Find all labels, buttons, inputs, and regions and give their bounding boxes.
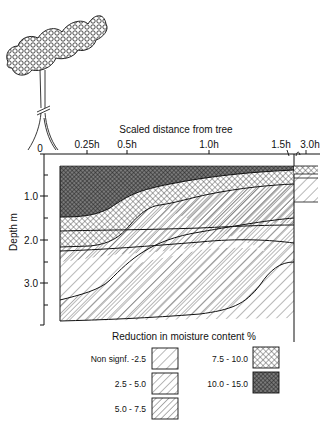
x-axis-title: Scaled distance from tree [119,124,233,135]
tree-canopy [7,16,107,75]
x-tick-3.0h: 3.0h [300,139,319,150]
legend-label-5.0-7.5: 5.0 - 7.5 [115,404,146,414]
legend-label-10.0-15.0: 10.0 - 15.0 [207,379,248,389]
x-tick-1.0h: 1.0h [199,139,218,150]
moisture-zones [60,154,318,342]
trunk-break-mark [37,106,50,115]
x-tick-0.5h: 0.5h [117,139,136,150]
legend-swatch-5.0-7.5 [152,398,178,419]
y-tick-1.0: 1.0 [24,191,38,202]
moisture-diagram: Scaled distance from tree 0 0.25h 0.5h 1… [0,0,327,432]
legend-swatch-non-signf [152,348,178,369]
legend-label-7.5-10.0: 7.5 - 10.0 [212,354,248,364]
legend-title: Reduction in moisture content % [112,331,256,342]
legend-swatch-10.0-15.0 [253,372,279,393]
legend-label-non-signf: Non signf. -2.5 [91,354,147,364]
x-origin-label: 0 [37,143,43,154]
tree-illustration [7,16,107,150]
legend-swatch-2.5-5.0 [152,373,178,394]
legend-swatch-7.5-10.0 [253,347,279,368]
legend-label-2.5-5.0: 2.5 - 5.0 [115,379,146,389]
y-tick-2.0: 2.0 [24,235,38,246]
y-axis-title: Depth m [8,213,19,251]
axis-break-mark [287,150,306,156]
x-tick-0.25h: 0.25h [74,139,99,150]
x-axis: Scaled distance from tree 0 0.25h 0.5h 1… [37,124,320,156]
legend: Reduction in moisture content % Non sign… [91,331,279,419]
y-tick-3.0: 3.0 [24,278,38,289]
y-axis: 1.0 2.0 3.0 Depth m [8,154,48,325]
x-tick-1.5h: 1.5h [271,139,290,150]
tree-trunk [28,70,58,150]
